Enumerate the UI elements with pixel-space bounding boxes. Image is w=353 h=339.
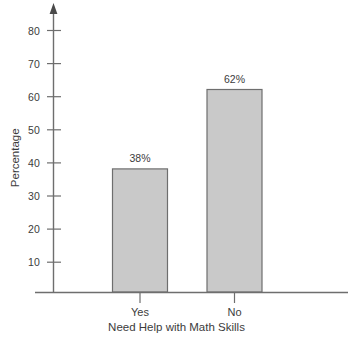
y-tick-label-20: 20 <box>14 224 40 235</box>
bar-value-yes: 38% <box>100 153 180 164</box>
bar-value-no: 62% <box>195 74 275 85</box>
y-tick-label-70: 70 <box>14 59 40 70</box>
x-axis-ticks <box>140 293 235 304</box>
y-axis-title: Percentage <box>10 98 22 218</box>
bar-yes <box>113 169 168 292</box>
bar-no <box>207 90 262 292</box>
y-axis <box>50 3 58 293</box>
y-tick-label-10: 10 <box>14 257 40 268</box>
y-tick-label-80: 80 <box>14 26 40 37</box>
y-axis-arrow-icon <box>50 3 58 14</box>
bar-series <box>113 90 263 292</box>
bar-chart: 80 70 60 50 40 30 20 10 38% 62% Yes No N… <box>0 0 353 339</box>
x-tick-label-yes: Yes <box>100 307 180 318</box>
x-axis-title: Need Help with Math Skills <box>0 322 353 334</box>
chart-canvas <box>0 0 353 339</box>
x-tick-label-no: No <box>195 307 275 318</box>
